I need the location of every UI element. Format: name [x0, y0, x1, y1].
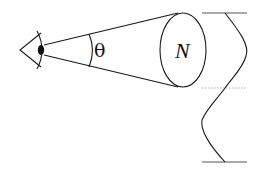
cone-lower-edge [44, 55, 178, 87]
sine-wave [202, 13, 247, 162]
viewing-cone [44, 13, 178, 87]
diagram-canvas: θ N [0, 0, 262, 180]
angle-arc [89, 34, 93, 67]
cone-upper-edge [44, 13, 178, 45]
eye-icon [20, 31, 44, 69]
count-label: N [174, 38, 191, 63]
angle-label: θ [94, 39, 105, 61]
eye-pupil [38, 45, 44, 55]
